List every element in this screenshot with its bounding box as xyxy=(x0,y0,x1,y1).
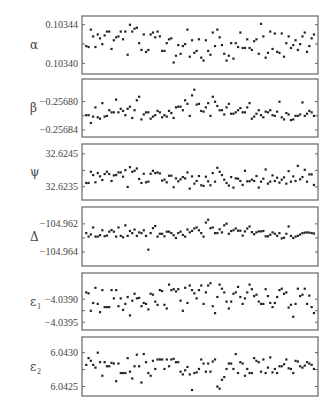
data-point xyxy=(313,33,315,35)
data-point xyxy=(304,115,306,117)
data-point xyxy=(175,361,177,363)
data-point xyxy=(297,115,299,117)
data-point xyxy=(225,106,227,108)
data-point xyxy=(285,42,287,44)
data-point xyxy=(147,181,149,183)
data-point xyxy=(237,286,239,288)
data-point xyxy=(147,308,149,310)
data-point xyxy=(260,303,262,305)
data-point xyxy=(276,372,278,374)
data-point xyxy=(288,35,290,37)
data-point xyxy=(251,231,253,233)
data-point xyxy=(177,361,179,363)
data-point xyxy=(225,301,227,303)
data-point xyxy=(163,235,165,237)
data-point xyxy=(110,289,112,291)
data-point xyxy=(110,229,112,231)
data-point xyxy=(313,184,315,186)
data-point xyxy=(159,111,161,113)
data-point xyxy=(159,35,161,37)
data-point xyxy=(281,179,283,181)
data-point xyxy=(193,89,195,91)
data-point xyxy=(152,360,154,362)
data-point xyxy=(99,175,101,177)
data-point xyxy=(124,372,126,374)
data-point xyxy=(246,106,248,108)
data-point xyxy=(306,231,308,233)
data-point xyxy=(182,45,184,47)
data-point xyxy=(308,232,310,234)
data-point xyxy=(145,51,147,53)
data-point xyxy=(94,46,96,48)
data-point xyxy=(122,309,124,311)
data-point xyxy=(170,232,172,234)
data-point xyxy=(92,226,94,228)
data-point xyxy=(221,288,223,290)
data-point xyxy=(297,235,299,237)
data-point xyxy=(140,305,142,307)
data-point xyxy=(143,353,145,355)
data-point xyxy=(87,46,89,48)
data-point xyxy=(255,38,257,40)
data-point xyxy=(129,106,131,108)
data-point xyxy=(110,111,112,113)
data-point xyxy=(106,30,108,32)
data-point xyxy=(248,102,250,104)
data-point xyxy=(214,232,216,234)
data-point xyxy=(281,32,283,34)
data-point xyxy=(269,356,271,358)
data-point xyxy=(163,179,165,181)
data-point xyxy=(271,114,273,116)
data-point xyxy=(184,99,186,101)
data-point xyxy=(232,58,234,60)
data-point xyxy=(239,361,241,363)
data-point xyxy=(228,307,230,309)
data-point xyxy=(219,171,221,173)
panel-4: −104.962−104.964Δ xyxy=(30,207,318,266)
data-point xyxy=(216,386,218,388)
data-point xyxy=(200,284,202,286)
data-point xyxy=(145,235,147,237)
data-point xyxy=(214,181,216,183)
data-point xyxy=(90,310,92,312)
data-point xyxy=(179,106,181,108)
data-point xyxy=(124,169,126,171)
panel-frame xyxy=(82,207,318,266)
y-tick-label: 0.10340 xyxy=(46,58,79,69)
data-point xyxy=(313,312,315,314)
data-point xyxy=(262,303,264,305)
data-point xyxy=(152,170,154,172)
data-point xyxy=(207,219,209,221)
data-point xyxy=(138,178,140,180)
panel-1: 0.103440.10340α xyxy=(30,16,318,74)
data-point xyxy=(191,389,193,391)
data-point xyxy=(290,119,292,121)
data-point xyxy=(306,181,308,183)
panel-symbol-label: ψ xyxy=(30,165,39,179)
data-point xyxy=(258,53,260,55)
data-point xyxy=(186,29,188,31)
data-point xyxy=(104,34,106,36)
data-point xyxy=(191,289,193,291)
data-point xyxy=(166,358,168,360)
y-tick-label: −4.0395 xyxy=(45,317,78,328)
data-point xyxy=(131,117,133,119)
data-point xyxy=(212,226,214,228)
data-point xyxy=(85,45,87,47)
data-point xyxy=(186,228,188,230)
data-point xyxy=(251,288,253,290)
data-point xyxy=(239,31,241,33)
data-point xyxy=(193,183,195,185)
data-point xyxy=(99,361,101,363)
data-point xyxy=(244,297,246,299)
data-point xyxy=(108,231,110,233)
data-point xyxy=(285,291,287,293)
data-point xyxy=(221,44,223,46)
data-point xyxy=(258,361,260,363)
data-point xyxy=(101,179,103,181)
data-point xyxy=(205,371,207,373)
data-point xyxy=(159,233,161,235)
data-point xyxy=(228,55,230,57)
data-point xyxy=(131,171,133,173)
y-tick-label: −104.964 xyxy=(40,246,78,257)
